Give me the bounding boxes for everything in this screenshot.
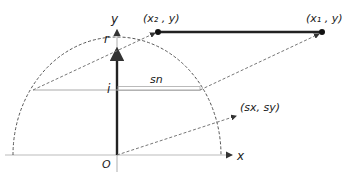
label-point-x2: (x₂ , y) xyxy=(143,12,180,25)
label-screen-point: (sx, sy) xyxy=(240,101,280,114)
projection-x2 xyxy=(33,33,155,90)
label-point-x1: (x₁ , y) xyxy=(306,12,343,25)
label-radius: r xyxy=(104,32,110,46)
point-x1 xyxy=(319,29,325,35)
label-origin: O xyxy=(102,158,111,171)
diagram-svg: y x O r i sn (x₂ , y) (x₁ , y) (sx, sy) xyxy=(0,0,354,179)
point-x2 xyxy=(155,29,161,35)
label-index: i xyxy=(107,82,111,96)
diagram-canvas: y x O r i sn (x₂ , y) (x₁ , y) (sx, sy) xyxy=(0,0,354,179)
projection-screen xyxy=(117,116,236,155)
projection-x1 xyxy=(200,34,319,90)
label-span: sn xyxy=(150,73,163,86)
label-y-axis: y xyxy=(110,12,119,26)
label-x-axis: x xyxy=(236,149,245,163)
